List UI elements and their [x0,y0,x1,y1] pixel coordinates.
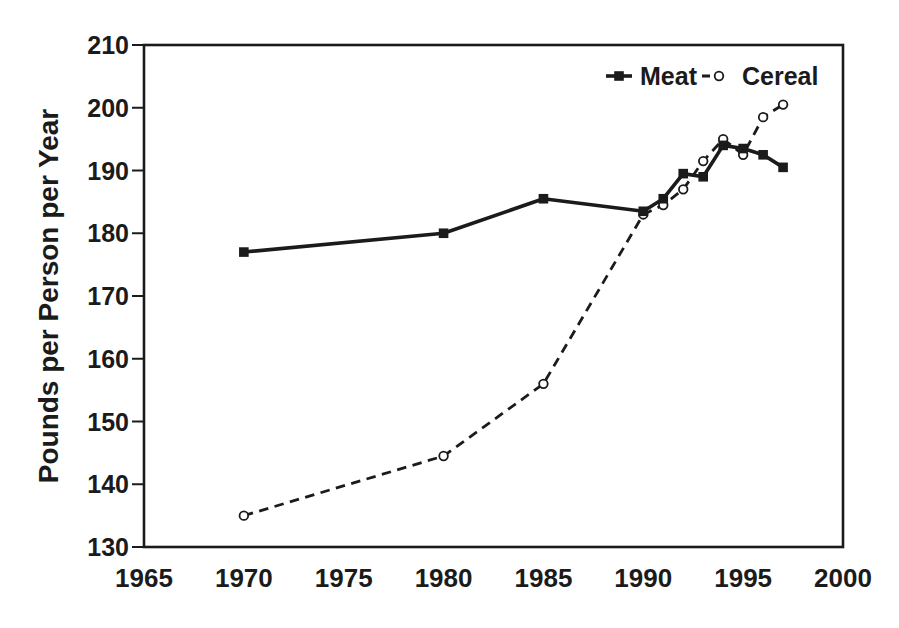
x-tick-label: 1995 [714,563,772,593]
x-tick-label: 1970 [215,563,273,593]
meat-point-marker [758,150,768,160]
y-tick-label: 200 [87,94,129,122]
y-tick-label: 150 [87,408,129,436]
y-tick-label: 160 [87,345,129,373]
x-tick-label: 1965 [115,563,173,593]
meat-point-marker [738,144,748,154]
y-tick-label: 130 [87,533,129,561]
cereal-legend-marker [715,72,724,81]
y-tick-label: 180 [87,219,129,247]
meat-point-marker [658,194,668,204]
cereal-line [244,105,783,516]
x-axis: 19651970197519801985199019952000 [115,563,872,593]
y-axis-title: Pounds per Person per Year [33,109,64,484]
x-tick-label: 1990 [614,563,672,593]
plot-frame [144,45,843,547]
chart-svg: Pounds per Person per Year 1301401501601… [0,0,899,628]
cereal-point-marker [779,100,788,109]
cereal-legend-label: Cereal [742,62,818,90]
meat-point-marker [539,194,549,204]
meat-point-marker [698,172,708,182]
meat-legend-label: Meat [640,62,698,90]
cereal-point-marker [679,185,688,194]
meat-point-marker [778,163,788,173]
chart-figure: Pounds per Person per Year 1301401501601… [0,0,899,628]
cereal-point-marker [539,380,548,389]
x-tick-label: 1980 [415,563,473,593]
x-tick-label: 1985 [515,563,573,593]
meat-point-marker [678,169,688,179]
x-tick-label: 1975 [315,563,373,593]
y-tick-label: 190 [87,157,129,185]
y-tick-label: 140 [87,470,129,498]
cereal-point-marker [439,452,448,461]
cereal-point-marker [240,511,249,520]
meat-legend-marker [614,71,624,81]
y-tick-label: 170 [87,282,129,310]
cereal-point-marker [759,113,768,122]
meat-point-marker [718,141,728,151]
series-group [239,100,788,520]
y-axis: 130140150160170180190200210 [87,31,144,561]
cereal-point-marker [699,157,708,166]
x-tick-label: 2000 [814,563,872,593]
meat-point-marker [638,206,648,216]
legend: MeatCereal [606,62,818,90]
y-tick-label: 210 [87,31,129,59]
meat-point-marker [439,228,449,238]
meat-point-marker [239,247,249,257]
